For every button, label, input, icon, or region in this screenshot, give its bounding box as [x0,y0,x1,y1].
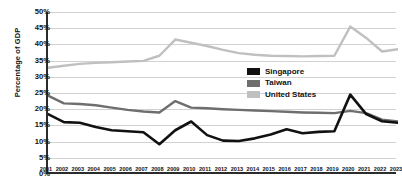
x-axis-tick-label: 2015 [262,166,274,172]
legend-item-label: Singapore [265,66,304,77]
x-axis-tick-label: 2007 [135,166,147,172]
x-axis-tick-label: 2016 [278,166,290,172]
y-axis-tick-label: 10% [8,138,54,146]
legend-swatch-icon [247,80,260,87]
x-axis-tick-label: 2003 [72,166,84,172]
y-axis-tick-label: 50% [8,8,54,16]
y-axis-tick-label: 45% [8,24,54,32]
x-axis-tick-label: 2004 [87,166,99,172]
legend-item-united-states[interactable]: United States [247,89,316,100]
x-axis-tick-label: 2006 [119,166,131,172]
series-line-singapore [48,95,398,145]
x-axis-tick-label: 2022 [374,166,386,172]
x-axis-tick-label: 2001 [40,166,52,172]
x-axis-tick-label: 2018 [310,166,322,172]
x-axis-tick-label: 2014 [247,166,259,172]
x-axis-tick-label: 2005 [103,166,115,172]
x-axis-tick-label: 2020 [342,166,354,172]
series-svg [48,12,398,174]
legend-swatch-icon [247,68,260,75]
chart-legend: SingaporeTaiwanUnited States [247,66,316,100]
y-axis-tick-label: 30% [8,73,54,81]
x-axis-tick-label: 2010 [183,166,195,172]
x-axis-tick-label: 2008 [151,166,163,172]
x-axis-tick-label: 2009 [167,166,179,172]
y-axis-tick-label: 15% [8,121,54,129]
x-axis-tick-label: 2012 [215,166,227,172]
gdp-line-chart: Percentage of GDP 50%45%40%35%30%25%20%1… [0,0,402,195]
x-axis-tick-label: 2017 [294,166,306,172]
y-axis-tick-label: 35% [8,57,54,65]
series-layer [48,12,396,172]
legend-item-label: Taiwan [265,77,292,88]
x-axis-tick-label: 2019 [326,166,338,172]
y-axis-tick-label: 20% [8,105,54,113]
legend-item-singapore[interactable]: Singapore [247,66,316,77]
series-line-united-states [48,27,398,68]
y-axis-tick-label: 40% [8,40,54,48]
y-axis-tick-label: 5% [8,154,54,162]
plot-area [46,12,396,174]
x-axis-tick-label: 2002 [56,166,68,172]
legend-item-label: United States [265,89,316,100]
legend-swatch-icon [247,91,260,98]
legend-item-taiwan[interactable]: Taiwan [247,77,316,88]
x-axis-tick-label: 2021 [358,166,370,172]
x-axis-tick-label: 2013 [231,166,243,172]
y-axis-tick-label: 25% [8,89,54,97]
x-axis-tick-label: 2023 [390,166,402,172]
x-axis-tick-label: 2011 [199,166,211,172]
